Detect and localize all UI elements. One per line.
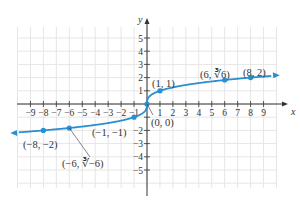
point-label: (0, 0) [151, 117, 174, 129]
point-labels: (−8, −2)(−6, ∛−6)(−1, −1)(0, 0)(1, 1)(6,… [23, 67, 266, 170]
y-tick-label: −4 [133, 152, 143, 162]
y-tick-label: 2 [138, 73, 143, 83]
x-tick-label: 5 [209, 108, 214, 118]
y-tick-label: −3 [133, 139, 143, 149]
point-label: (8, 2) [243, 67, 266, 79]
x-tick-label: −8 [38, 108, 48, 118]
x-tick-label: −3 [103, 108, 113, 118]
y-tick-label: 4 [138, 47, 143, 57]
x-tick-label: −2 [116, 108, 126, 118]
cube-root-graph: xy−9−8−7−6−5−4−3−2−1123456789−5−4−3−2123… [0, 0, 300, 207]
x-tick-label: 9 [261, 108, 266, 118]
point-label: (1, 1) [152, 78, 175, 90]
y-tick-label: −5 [133, 166, 143, 176]
y-tick-label: 1 [138, 86, 143, 96]
x-tick-label: −9 [25, 108, 35, 118]
axes: xy−9−8−7−6−5−4−3−2−1123456789−5−4−3−2123… [17, 14, 296, 196]
x-axis-arrow-icon [282, 102, 288, 107]
leader-line [69, 128, 90, 157]
x-tick-label: −5 [77, 108, 87, 118]
plot-area: xy−9−8−7−6−5−4−3−2−1123456789−5−4−3−2123… [0, 0, 300, 207]
y-tick-label: −2 [133, 126, 143, 136]
point-label: (−1, −1) [92, 127, 127, 139]
point-label: (6, ∛6) [200, 68, 230, 81]
x-tick-label: 6 [222, 108, 227, 118]
leader-line [147, 104, 153, 115]
y-axis-arrow-icon [145, 18, 150, 24]
x-tick-label: 8 [248, 108, 253, 118]
point-label: (−6, ∛−6) [62, 157, 104, 170]
x-tick-label: 3 [183, 108, 188, 118]
point-label: (−8, −2) [23, 139, 58, 151]
data-point [131, 115, 136, 120]
x-tick-label: 4 [196, 108, 201, 118]
y-axis-label: y [137, 14, 143, 25]
x-tick-label: −7 [51, 108, 61, 118]
y-tick-label: 3 [138, 60, 143, 70]
x-tick-label: −4 [90, 108, 100, 118]
y-tick-label: 5 [138, 34, 143, 44]
curve-arrow-left-icon [10, 130, 17, 136]
x-tick-label: 7 [235, 108, 240, 118]
x-tick-label: −6 [64, 108, 74, 118]
data-point [41, 128, 46, 133]
x-axis-label: x [290, 106, 296, 117]
